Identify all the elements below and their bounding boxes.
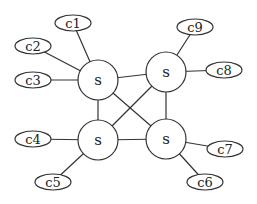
server-node-s_tr: s — [146, 52, 186, 92]
client-node-c7: c7 — [207, 141, 243, 157]
client-label: c4 — [25, 132, 41, 147]
clients-layer: c1c2c3c4c5c6c7c8c9 — [15, 15, 243, 190]
client-node-c2: c2 — [15, 38, 51, 54]
client-node-c9: c9 — [177, 19, 213, 35]
network-topology-diagram: ssss c1c2c3c4c5c6c7c8c9 — [0, 0, 257, 204]
client-label: c9 — [187, 20, 203, 35]
client-label: c2 — [25, 39, 41, 54]
client-node-c4: c4 — [15, 131, 51, 147]
client-label: c1 — [65, 16, 81, 31]
client-label: c8 — [216, 63, 232, 78]
server-label: s — [94, 71, 102, 89]
client-label: c7 — [217, 142, 233, 157]
client-node-c3: c3 — [15, 72, 51, 88]
client-label: c5 — [45, 175, 61, 190]
client-node-c6: c6 — [187, 174, 223, 190]
server-label: s — [162, 63, 170, 81]
client-node-c8: c8 — [206, 62, 242, 78]
server-node-s_br: s — [146, 119, 186, 159]
client-label: c3 — [25, 73, 41, 88]
server-node-s_bl: s — [78, 120, 118, 160]
client-node-c5: c5 — [35, 174, 71, 190]
edges-layer — [33, 23, 225, 182]
client-node-c1: c1 — [55, 15, 91, 31]
client-label: c6 — [197, 175, 213, 190]
server-label: s — [94, 131, 102, 149]
server-node-s_tl: s — [78, 60, 118, 100]
server-label: s — [162, 130, 170, 148]
